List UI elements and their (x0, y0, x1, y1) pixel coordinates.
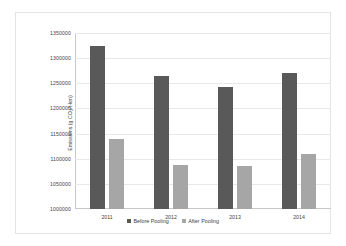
y-axis-tick-label: 1050000 (50, 181, 71, 187)
y-axis-tick-label: 1350000 (50, 30, 71, 36)
y-axis-line (75, 33, 76, 209)
plot-area: 1000000105000011000001150000120000012500… (75, 33, 331, 209)
legend-swatch-icon (182, 219, 186, 223)
chart-legend: Before PoolingAfter Pooling (16, 218, 330, 224)
legend-label: Before Pooling (133, 218, 168, 224)
y-axis-title: Emissions (g CO2/t-km) (67, 95, 73, 151)
bar-2014-before-pooling (282, 73, 297, 209)
bar-2012-after-pooling (173, 165, 188, 209)
bar-group-2014 (282, 33, 316, 209)
y-axis-tick-label: 1200000 (50, 105, 71, 111)
bar-group-2011 (90, 33, 124, 209)
legend-swatch-icon (127, 219, 131, 223)
bar-2013-before-pooling (218, 87, 233, 209)
bar-group-2012 (154, 33, 188, 209)
y-axis-tick-label: 1000000 (50, 206, 71, 212)
y-axis-tick-label: 1100000 (50, 156, 71, 162)
chart-container: Emissions (g CO2/t-km) 10000001050000110… (15, 12, 331, 234)
y-axis-tick-label: 1250000 (50, 80, 71, 86)
bar-2011-after-pooling (109, 139, 124, 209)
legend-entry[interactable]: After Pooling (182, 218, 219, 224)
y-axis-tick-label: 1150000 (50, 131, 71, 137)
legend-label: After Pooling (188, 218, 219, 224)
bar-2012-before-pooling (154, 76, 169, 209)
bar-2013-after-pooling (237, 166, 252, 209)
y-axis-tick-label: 1300000 (50, 55, 71, 61)
bar-2014-after-pooling (301, 154, 316, 209)
bar-group-2013 (218, 33, 252, 209)
bar-2011-before-pooling (90, 46, 105, 209)
legend-entry[interactable]: Before Pooling (127, 218, 169, 224)
